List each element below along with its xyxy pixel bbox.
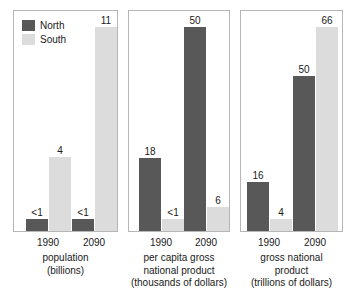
caption-line: national product: [118, 265, 240, 278]
bar-value-north-1990: 18: [144, 146, 155, 157]
bar-value-north-2090: 50: [298, 64, 309, 75]
bar-group-2090: 50 6: [184, 11, 229, 231]
caption-line: (billions): [3, 265, 128, 278]
bar-value-south-2090: 6: [215, 195, 221, 206]
bar-value-north-1990: <1: [31, 207, 42, 218]
x-axis-ticks-gnp: 1990 2090: [240, 236, 343, 250]
chart-panel-population: North South <1 4 <1: [13, 10, 118, 232]
bar-group-1990: <1 4: [26, 11, 71, 231]
bar-value-south-1990: <1: [167, 207, 178, 218]
panel-caption-per-capita-gnp: per capita gross national product (thous…: [118, 252, 240, 290]
panel-caption-gnp: gross national product (trillions of dol…: [230, 252, 353, 290]
x-tick-1990: 1990: [246, 236, 292, 250]
bar-value-south-2090: 66: [321, 15, 332, 26]
caption-line: product: [230, 265, 353, 278]
plot-area-per-capita-gnp: 18 <1 50 6: [129, 11, 229, 231]
plot-area-gnp: 16 4 50 66: [241, 11, 342, 231]
bar-south-1990: 4: [270, 219, 292, 231]
x-axis-ticks-population: 1990 2090: [13, 236, 118, 250]
x-axis-ticks-per-capita-gnp: 1990 2090: [128, 236, 230, 250]
bar-value-south-1990: 4: [57, 145, 63, 156]
bar-south-1990: 4: [49, 157, 71, 231]
bar-north-2090: <1: [72, 219, 94, 231]
bar-value-north-2090: 50: [189, 15, 200, 26]
plot-area-population: North South <1 4 <1: [14, 11, 117, 231]
x-tick-2090: 2090: [183, 236, 229, 250]
bar-south-1990: <1: [162, 219, 184, 231]
bar-value-south-1990: 4: [278, 207, 284, 218]
x-tick-2090: 2090: [71, 236, 117, 250]
bar-north-1990: 16: [247, 182, 269, 231]
bar-group-2090: 50 66: [293, 11, 338, 231]
x-tick-1990: 1990: [25, 236, 71, 250]
panel-caption-population: population (billions): [3, 252, 128, 277]
caption-line: population: [3, 252, 128, 265]
bar-group-2090: <1 11: [72, 11, 117, 231]
caption-line: per capita gross: [118, 252, 240, 265]
bar-north-2090: 50: [184, 27, 206, 231]
x-tick-2090: 2090: [292, 236, 338, 250]
bar-south-2090: 66: [316, 27, 338, 231]
bar-value-north-1990: 16: [252, 170, 263, 181]
bar-south-2090: 11: [95, 27, 117, 231]
chart-panel-per-capita-gnp: 18 <1 50 6: [128, 10, 230, 232]
bar-group-1990: 18 <1: [139, 11, 184, 231]
x-tick-1990: 1990: [138, 236, 184, 250]
caption-line: (thousands of dollars): [118, 277, 240, 290]
caption-line: (trillions of dollars): [230, 277, 353, 290]
bar-north-2090: 50: [293, 76, 315, 231]
chart-panel-gnp: 16 4 50 66: [240, 10, 343, 232]
bar-chart-figure: North South <1 4 <1: [0, 0, 355, 303]
bar-value-south-2090: 11: [101, 15, 111, 26]
bar-group-1990: 16 4: [247, 11, 292, 231]
bar-south-2090: 6: [207, 207, 229, 231]
bar-north-1990: <1: [26, 219, 48, 231]
bar-value-north-2090: <1: [77, 207, 88, 218]
caption-line: gross national: [230, 252, 353, 265]
bar-north-1990: 18: [139, 158, 161, 231]
